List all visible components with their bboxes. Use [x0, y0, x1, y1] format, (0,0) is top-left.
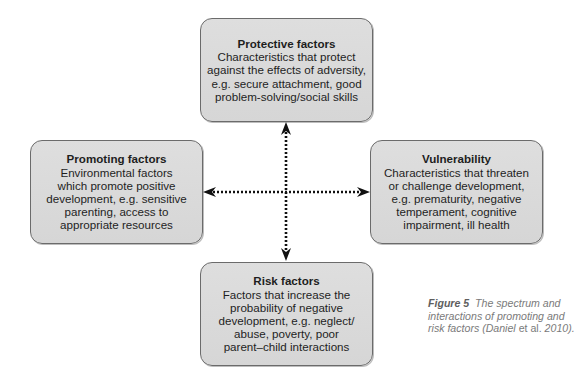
caption-etal: et al.	[516, 322, 542, 334]
figure-label: Figure 5	[428, 297, 469, 309]
caption-year: 2010).	[542, 322, 575, 334]
figure-caption: Figure 5 The spectrum and interactions o…	[428, 297, 578, 335]
caption-author: Daniel	[486, 322, 516, 334]
